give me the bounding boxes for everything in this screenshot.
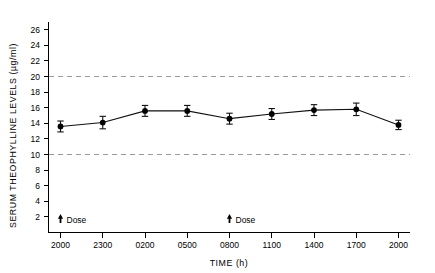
- data-point-marker: [311, 107, 317, 113]
- data-point-marker: [396, 122, 402, 128]
- x-tick-label: 0800: [220, 240, 239, 250]
- y-tick-label: 26: [31, 25, 41, 35]
- y-tick-label: 2: [35, 212, 40, 222]
- y-tick-label: 6: [35, 181, 40, 191]
- x-tick-label: 2000: [389, 240, 408, 250]
- y-tick-label: 8: [35, 165, 40, 175]
- y-axis-title: SERUM THEOPHYLLINE LEVELS (µg/ml): [8, 43, 18, 228]
- y-tick-label: 20: [31, 72, 41, 82]
- y-tick-label: 4: [35, 196, 40, 206]
- x-tick-label-group: 200023000200050008001100140017002000: [51, 240, 408, 250]
- dose-annotation-group: DoseDose: [58, 214, 256, 225]
- y-tick-group: [44, 30, 49, 217]
- x-tick-label: 2300: [93, 240, 112, 250]
- dose-arrow-icon: [227, 214, 232, 223]
- dose-label: Dose: [236, 215, 256, 225]
- y-tick-label: 18: [31, 87, 41, 97]
- dose-arrow-icon: [58, 214, 63, 223]
- x-axis-title: TIME (h): [210, 258, 249, 268]
- x-tick-label: 2000: [51, 240, 70, 250]
- y-tick-label: 12: [31, 134, 41, 144]
- x-tick-group: [61, 233, 399, 238]
- y-tick-label: 16: [31, 103, 41, 113]
- x-tick-label: 1700: [347, 240, 366, 250]
- data-point-marker: [269, 111, 275, 117]
- x-tick-label: 0500: [178, 240, 197, 250]
- data-point-marker: [100, 120, 106, 126]
- dose-annotation: Dose: [227, 214, 256, 225]
- x-tick-label: 1100: [263, 240, 282, 250]
- x-tick-label: 1400: [305, 240, 324, 250]
- data-point-marker: [353, 106, 359, 112]
- data-point-marker: [58, 124, 64, 130]
- data-point-marker: [184, 108, 190, 114]
- theophylline-chart-figure: 2468101214161820222426 20002300020005000…: [0, 0, 435, 273]
- chart-canvas: 2468101214161820222426 20002300020005000…: [0, 0, 435, 273]
- y-tick-label: 10: [31, 150, 41, 160]
- data-point-marker: [142, 108, 148, 114]
- dose-annotation: Dose: [58, 214, 87, 225]
- dose-label: Dose: [67, 215, 87, 225]
- y-tick-label: 24: [31, 40, 41, 50]
- x-tick-label: 0200: [136, 240, 155, 250]
- data-point-marker: [227, 116, 233, 122]
- y-tick-label-group: 2468101214161820222426: [31, 25, 41, 222]
- y-tick-label: 14: [31, 118, 41, 128]
- y-tick-label: 22: [31, 56, 41, 66]
